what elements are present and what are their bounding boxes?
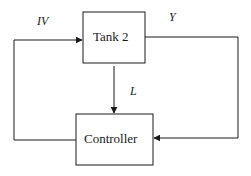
feedback-block-diagram: Tank 2 Controller IV Y L <box>0 0 251 176</box>
tank-block-label: Tank 2 <box>93 29 129 45</box>
output-signal-label: Y <box>169 10 176 25</box>
output-signal-line <box>145 37 238 138</box>
input-signal-line <box>14 40 82 140</box>
input-signal-label: IV <box>37 14 48 29</box>
disturbance-signal-label: L <box>130 84 137 99</box>
controller-block-label: Controller <box>84 131 137 147</box>
